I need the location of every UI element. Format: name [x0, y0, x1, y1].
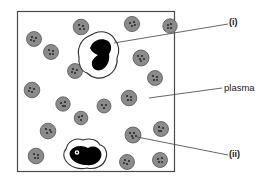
red-blood-cell: [56, 97, 70, 111]
red-blood-cell: [154, 122, 169, 137]
red-blood-cell: [27, 32, 42, 47]
red-blood-cell: [163, 19, 177, 33]
red-blood-cell: [74, 111, 88, 125]
red-blood-cell: [40, 123, 56, 139]
callout-label-i: (i): [229, 18, 238, 27]
red-blood-cell: [148, 71, 163, 86]
white-blood-cell-ii-vacuole-center: [76, 152, 78, 154]
red-blood-cell: [125, 127, 141, 143]
red-blood-cell: [153, 153, 168, 168]
red-blood-cell: [121, 90, 137, 106]
red-blood-cell: [44, 45, 59, 60]
callout-label-ii: (ii): [229, 150, 240, 159]
red-blood-cell: [28, 148, 44, 164]
red-blood-cell: [133, 50, 149, 66]
white-blood-cell-i: [78, 32, 118, 78]
red-blood-cell: [73, 19, 89, 35]
blood-smear-figure: (i) plasma (ii): [0, 0, 280, 182]
red-blood-cell: [120, 155, 135, 170]
red-blood-cell: [124, 16, 139, 31]
callout-label-plasma: plasma: [224, 83, 255, 93]
red-blood-cell: [24, 82, 40, 98]
red-blood-cell: [97, 99, 111, 113]
